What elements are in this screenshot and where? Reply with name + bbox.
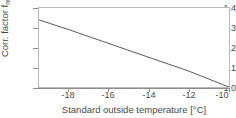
y-axis-title: Corr. factor fnorm [-] bbox=[0, 0, 11, 57]
y-axis-title-main: Corr. factor f bbox=[0, 5, 10, 57]
plot-area bbox=[38, 7, 230, 88]
y-axis-title-subscript: norm bbox=[4, 0, 11, 5]
y-axis-title-wrapper: Corr. factor fnorm [-] bbox=[0, 0, 12, 59]
x-tick-label--12: -12 bbox=[176, 91, 202, 100]
x-tick-label--18: -18 bbox=[55, 91, 81, 100]
x-axis-title: Standard outside temperature [°C] bbox=[38, 104, 230, 115]
x-tick-label--16: -16 bbox=[95, 91, 121, 100]
x-axis-line bbox=[38, 88, 230, 89]
series-line-correction-factor bbox=[39, 20, 229, 87]
x-tick-label--10: -10 bbox=[209, 91, 235, 100]
x-tick-label--14: -14 bbox=[136, 91, 162, 100]
chart-container: 1.4 1.3 1.2 1.1 1.0 -18 -16 -14 -12 -10 … bbox=[0, 0, 236, 118]
data-line-svg bbox=[39, 8, 229, 87]
